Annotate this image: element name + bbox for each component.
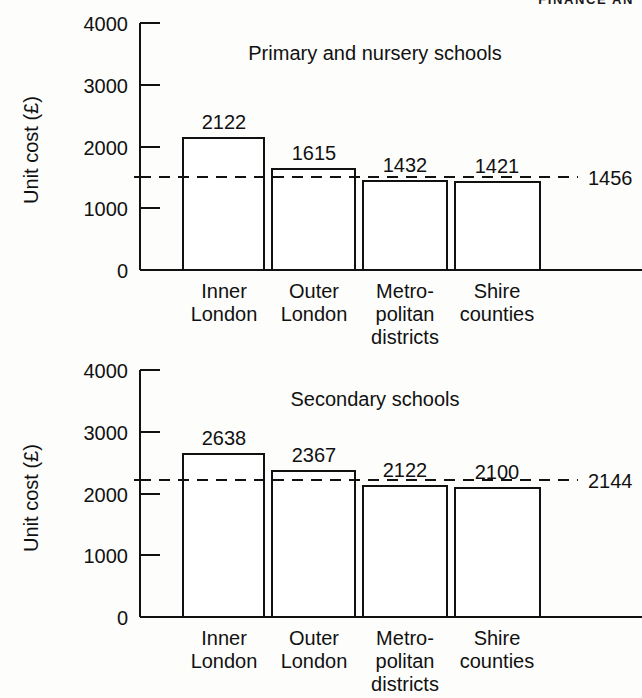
y-axis-title-secondary: Unit cost (£) [20, 444, 42, 552]
bar-value-outer-london-primary: 1615 [292, 142, 337, 164]
category-labels-group-secondary: Inner London Outer London Metro- politan… [191, 627, 535, 695]
cat-label-outer-london-primary-line1: Outer [289, 280, 339, 302]
bar-shire-counties-secondary[interactable] [455, 488, 540, 617]
cat-label-shire-counties-secondary-line1: Shire [474, 627, 521, 649]
bar-metropolitan-districts-secondary[interactable] [363, 486, 447, 617]
bar-outer-london-primary[interactable] [272, 169, 355, 270]
cat-label-inner-london-secondary-line1: Inner [201, 627, 247, 649]
y-tick-label-0-secondary: 0 [117, 607, 128, 629]
chart-title-primary: Primary and nursery schools [248, 42, 501, 64]
y-tick-label-3000-secondary: 3000 [84, 422, 129, 444]
cat-label-shire-counties-secondary-line2: counties [460, 650, 535, 672]
cat-label-shire-counties-primary-line1: Shire [474, 280, 521, 302]
cat-label-outer-london-secondary-line2: London [281, 650, 348, 672]
bar-value-metropolitan-districts-primary: 1432 [383, 154, 428, 176]
bar-value-inner-london-primary: 2122 [202, 111, 247, 133]
y-axis-title-primary: Unit cost (£) [20, 96, 42, 204]
bar-outer-london-secondary[interactable] [272, 471, 355, 617]
y-tick-label-2000-secondary: 2000 [84, 484, 129, 506]
chart-secondary-svg: 4000 3000 2000 1000 0 Unit cost (£) Seco… [0, 348, 642, 698]
reference-line-label-primary: 1456 [588, 167, 633, 189]
bar-shire-counties-primary[interactable] [455, 182, 540, 270]
y-tick-label-1000-primary: 1000 [84, 198, 129, 220]
cat-label-metropolitan-districts-secondary-line3: districts [371, 673, 439, 695]
chart-secondary-schools: 4000 3000 2000 1000 0 Unit cost (£) Seco… [0, 348, 642, 698]
cat-label-shire-counties-primary-line2: counties [460, 303, 535, 325]
cat-label-metropolitan-districts-primary-line2: politan [376, 303, 435, 325]
cat-label-metropolitan-districts-secondary-line1: Metro- [376, 627, 434, 649]
y-tick-label-4000-secondary: 4000 [84, 360, 129, 382]
cat-label-inner-london-primary-line1: Inner [201, 280, 247, 302]
cat-label-metropolitan-districts-primary-line1: Metro- [376, 280, 434, 302]
chart-title-secondary: Secondary schools [291, 388, 460, 410]
cat-label-inner-london-primary-line2: London [191, 303, 258, 325]
y-tick-label-1000-secondary: 1000 [84, 545, 129, 567]
chart-primary-nursery-schools: 4000 3000 2000 1000 0 Unit cost (£) Prim… [0, 0, 642, 350]
category-labels-group-primary: Inner London Outer London Metro- politan… [191, 280, 535, 348]
cat-label-metropolitan-districts-primary-line3: districts [371, 326, 439, 348]
bar-value-metropolitan-districts-secondary: 2122 [383, 459, 428, 481]
bar-value-outer-london-secondary: 2367 [292, 444, 337, 466]
cat-label-outer-london-secondary-line1: Outer [289, 627, 339, 649]
cat-label-inner-london-secondary-line2: London [191, 650, 258, 672]
bar-value-inner-london-secondary: 2638 [202, 427, 247, 449]
reference-line-label-secondary: 2144 [588, 470, 633, 492]
bar-metropolitan-districts-primary[interactable] [363, 181, 447, 270]
y-tick-label-2000-primary: 2000 [84, 137, 129, 159]
y-tick-label-0-primary: 0 [117, 260, 128, 282]
cat-label-outer-london-primary-line2: London [281, 303, 348, 325]
y-tick-label-3000-primary: 3000 [84, 75, 129, 97]
y-tick-label-4000-primary: 4000 [84, 13, 129, 35]
cat-label-metropolitan-districts-secondary-line2: politan [376, 650, 435, 672]
chart-primary-svg: 4000 3000 2000 1000 0 Unit cost (£) Prim… [0, 0, 642, 350]
bar-inner-london-secondary[interactable] [183, 454, 264, 617]
scanned-page: FINANCE AN 4000 3000 2000 1000 0 Unit co… [0, 0, 642, 698]
bar-inner-london-primary[interactable] [183, 138, 264, 270]
bar-value-shire-counties-primary: 1421 [475, 155, 520, 177]
bar-value-shire-counties-secondary: 2100 [475, 461, 520, 483]
